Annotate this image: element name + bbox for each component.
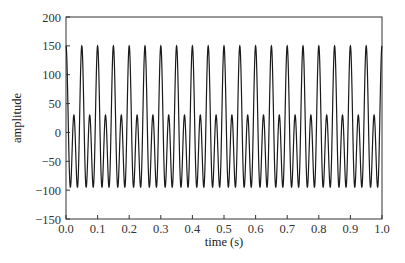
x-tick-label: 1.0 (374, 222, 390, 236)
y-tick-label: 200 (42, 11, 61, 25)
x-tick-label: 0.7 (279, 222, 295, 236)
x-tick-label: 0.3 (153, 222, 169, 236)
x-tick-label: 0.5 (216, 222, 232, 236)
x-tick-label: 0.1 (90, 222, 106, 236)
x-tick-label: 0.8 (311, 222, 327, 236)
y-tick-label: −150 (35, 213, 61, 227)
x-axis-label: time (s) (205, 235, 244, 249)
y-tick-label: 100 (42, 68, 61, 82)
y-tick-label: −100 (35, 184, 61, 198)
y-axis-label: amplitude (10, 93, 24, 143)
x-tick-label: 0.6 (248, 222, 264, 236)
x-tick-label: 0.9 (343, 222, 359, 236)
signal-chart: 0.00.10.20.30.40.50.60.70.80.91.0 200150… (0, 0, 405, 263)
y-tick-label: 150 (42, 39, 61, 53)
y-tick-label: 0 (55, 126, 61, 140)
y-axis-ticks: 200150100500−50−100−150 (35, 11, 70, 227)
x-tick-label: 0.4 (185, 222, 201, 236)
y-tick-label: −50 (41, 155, 61, 169)
y-tick-label: 50 (49, 97, 62, 111)
x-tick-label: 0.2 (121, 222, 137, 236)
